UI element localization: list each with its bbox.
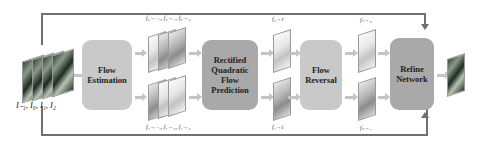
arrow-estimation-bottom	[135, 96, 142, 99]
flow-map-bottom-3	[168, 75, 186, 117]
input-frame-4	[52, 48, 74, 97]
reversed-flow-top	[358, 29, 376, 73]
arrow-reversal-bottom	[345, 96, 353, 99]
flow-estimation-block: Flow Estimation	[82, 40, 132, 110]
estimation-top-flow-label: f₀→₋₁, f₀→₁, f₀→₂	[146, 14, 191, 21]
arrow-to-reversal-bottom	[288, 96, 296, 99]
arrow-reversal-top	[345, 52, 353, 55]
intermediate-flow-top	[273, 29, 291, 73]
bottom-skip-arrowhead	[421, 112, 429, 118]
estimation-bottom-flow-label: f₁→₋₁, f₁→₀, f₁→₂	[146, 123, 191, 130]
rectified-quadratic-label: Rectified Quadratic Flow Prediction	[207, 55, 253, 95]
refine-network-block: Refine Network	[390, 38, 434, 110]
flow-reversal-block: Flow Reversal	[300, 40, 342, 110]
intermediate-flow-bottom	[273, 77, 291, 121]
arrow-to-output	[437, 74, 445, 77]
reversed-flow-bottom	[358, 77, 376, 121]
flow-reversal-label: Flow Reversal	[300, 65, 342, 85]
reversal-top-flow-label: fₜ→₀	[360, 16, 372, 23]
quadratic-bottom-flow-label: f₁→t	[272, 124, 283, 130]
input-frames-label: I₋₁, I₀, I₁, I₂	[16, 100, 56, 110]
flow-map-top-3	[168, 27, 186, 69]
arrow-to-reversal-top	[288, 52, 296, 55]
reversal-bottom-flow-label: fₜ→₁	[360, 124, 372, 131]
rectified-quadratic-flow-prediction-block: Rectified Quadratic Flow Prediction	[202, 40, 258, 110]
arrow-to-quadratic-bottom	[189, 96, 197, 99]
arrow-to-refine-top	[378, 52, 385, 55]
arrow-input-to-estimation	[74, 74, 82, 77]
refine-network-label: Refine Network	[390, 64, 434, 84]
arrow-quadratic-bottom	[261, 96, 269, 99]
arrow-to-refine-bottom	[378, 96, 385, 99]
top-skip-arrowhead	[421, 24, 429, 30]
arrow-to-quadratic-top	[189, 52, 197, 55]
arrow-quadratic-top	[261, 52, 269, 55]
flow-estimation-label: Flow Estimation	[82, 65, 132, 85]
arrow-estimation-top	[135, 52, 142, 55]
output-frame	[447, 53, 465, 97]
quadratic-top-flow-label: f₀→t	[272, 16, 283, 22]
